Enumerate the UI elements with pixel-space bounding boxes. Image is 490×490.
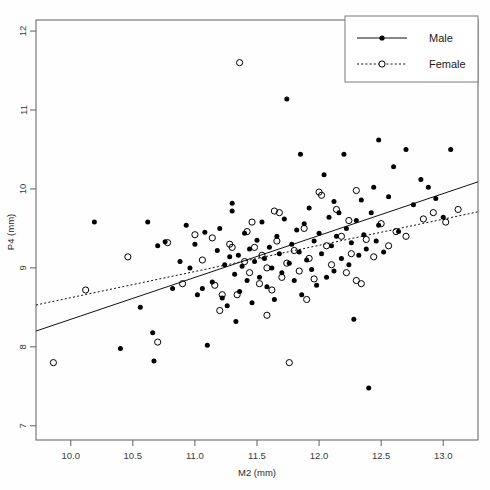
x-tick-label: 11.0 — [186, 450, 204, 461]
data-points-female — [50, 60, 461, 366]
data-point-male — [369, 210, 374, 215]
data-point-male — [195, 292, 200, 297]
data-point-female — [50, 360, 56, 366]
data-point-male — [297, 250, 302, 255]
data-point-female — [199, 257, 205, 263]
data-point-male — [386, 194, 391, 199]
data-point-female — [264, 265, 270, 271]
data-point-female — [430, 210, 436, 216]
data-point-male — [317, 231, 322, 236]
data-point-female — [386, 243, 392, 249]
data-point-female — [217, 307, 223, 313]
data-point-female — [246, 270, 252, 276]
data-point-male — [272, 297, 277, 302]
data-point-male — [163, 239, 168, 244]
data-point-female — [353, 187, 359, 193]
data-point-female — [338, 233, 344, 239]
legend[interactable]: MaleFemale — [345, 16, 478, 82]
data-point-male — [322, 172, 327, 177]
data-point-female — [296, 268, 302, 274]
data-point-female — [323, 243, 329, 249]
data-point-male — [376, 223, 381, 228]
data-point-male — [319, 251, 324, 256]
data-point-male — [331, 269, 336, 274]
data-point-female — [192, 232, 198, 238]
data-point-female — [274, 238, 280, 244]
data-point-female — [455, 206, 461, 212]
data-point-female — [286, 360, 292, 366]
y-tick-label: 11 — [18, 105, 29, 115]
data-point-male — [336, 210, 341, 215]
data-point-male — [282, 216, 287, 221]
data-point-male — [187, 265, 192, 270]
y-tick-label: 8 — [18, 344, 29, 349]
data-point-male — [448, 147, 453, 152]
data-point-male — [138, 305, 143, 310]
data-point-male — [267, 245, 272, 250]
x-tick-label: 12.0 — [310, 450, 329, 461]
plot-canvas: 10.010.511.011.512.012.513.0 121110987 M… — [0, 0, 490, 490]
x-axis-title: M2 (mm) — [238, 467, 276, 478]
data-point-male — [250, 300, 255, 305]
data-point-male — [277, 251, 282, 256]
data-point-male — [240, 264, 245, 269]
y-tick-label: 7 — [18, 423, 29, 428]
data-point-female — [346, 217, 352, 223]
data-point-female — [304, 296, 310, 302]
data-point-male — [247, 246, 252, 251]
data-point-male — [302, 221, 307, 226]
data-point-female — [237, 60, 243, 66]
data-point-male — [374, 239, 379, 244]
data-point-male — [403, 147, 408, 152]
data-point-female — [343, 270, 349, 276]
data-point-male — [351, 317, 356, 322]
legend-marker-male — [379, 35, 384, 40]
data-point-female — [209, 235, 215, 241]
data-point-male — [341, 152, 346, 157]
data-point-male — [150, 330, 155, 335]
data-point-male — [366, 385, 371, 390]
y-tick-label: 10 — [18, 184, 29, 195]
data-point-male — [396, 229, 401, 234]
data-point-male — [222, 262, 227, 267]
data-point-male — [309, 267, 314, 272]
legend-box — [345, 16, 478, 82]
data-point-male — [376, 138, 381, 143]
data-point-female — [371, 254, 377, 260]
data-point-male — [391, 164, 396, 169]
legend-marker-female — [379, 61, 385, 67]
legend-label-female: Female — [429, 58, 466, 70]
data-point-male — [294, 228, 299, 233]
data-point-male — [255, 238, 260, 243]
data-point-male — [210, 280, 215, 285]
data-point-female — [125, 254, 131, 260]
data-point-male — [441, 215, 446, 220]
data-point-female — [251, 244, 257, 250]
data-point-male — [232, 272, 237, 277]
data-point-male — [354, 218, 359, 223]
data-point-male — [215, 248, 220, 253]
data-point-male — [225, 303, 230, 308]
data-point-female — [264, 312, 270, 318]
data-point-male — [371, 185, 376, 190]
data-point-female — [155, 339, 161, 345]
data-point-male — [279, 270, 284, 275]
data-point-male — [200, 286, 205, 291]
data-point-male — [242, 231, 247, 236]
data-point-female — [249, 219, 255, 225]
data-point-male — [284, 96, 289, 101]
trend-line-female — [36, 212, 478, 305]
plot-frame — [36, 20, 478, 440]
data-point-male — [364, 246, 369, 251]
data-point-male — [312, 239, 317, 244]
data-point-male — [262, 256, 267, 261]
data-point-female — [256, 281, 262, 287]
data-point-male — [236, 253, 241, 258]
data-point-male — [92, 220, 97, 225]
data-point-male — [202, 230, 207, 235]
data-point-male — [339, 256, 344, 261]
x-tick-label: 11.5 — [248, 450, 266, 461]
data-point-male — [292, 278, 297, 283]
data-point-male — [426, 185, 431, 190]
data-point-male — [433, 196, 438, 201]
